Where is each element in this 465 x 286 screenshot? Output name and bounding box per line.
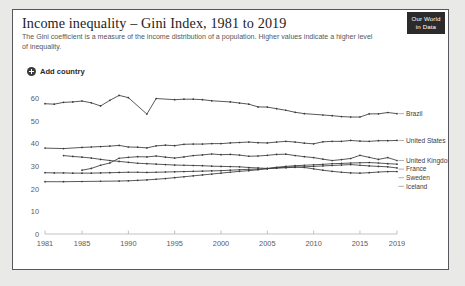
data-point [100,105,102,107]
data-point [229,142,231,144]
data-point [211,143,213,145]
data-point [183,143,185,145]
data-point [239,142,241,144]
data-point [359,164,361,166]
data-point [350,116,352,118]
data-point [331,163,333,165]
data-point [257,106,259,108]
data-point [174,171,176,173]
data-point [248,170,250,172]
data-point [155,155,157,157]
x-axis-tick-label: 2005 [259,239,275,248]
data-point [155,178,157,180]
data-point [137,180,139,182]
data-point [387,140,389,142]
y-axis-tick-label: 20 [31,185,39,194]
data-point [239,169,241,171]
data-point [257,155,259,157]
data-point [248,141,250,143]
data-point [396,171,398,173]
data-point [128,161,130,163]
data-point [322,114,324,116]
data-point [220,172,222,174]
data-point [202,170,204,172]
data-point [81,169,83,171]
data-point [165,178,167,180]
data-point [202,154,204,156]
data-point [266,142,268,144]
data-point [322,158,324,160]
data-point [44,103,46,105]
data-point [90,168,92,170]
legend-label-united-states: United States [406,137,446,144]
data-point [183,164,185,166]
data-point [276,108,278,110]
data-point [118,145,120,147]
data-point [285,141,287,143]
data-point [155,171,157,173]
data-point [211,173,213,175]
data-point [155,163,157,165]
data-point [192,98,194,100]
data-point [387,166,389,168]
data-point [63,148,65,150]
data-point [174,164,176,166]
data-point [146,156,148,158]
data-point [100,146,102,148]
data-point [248,103,250,105]
x-axis-tick-label: 2010 [305,239,321,248]
data-point [211,170,213,172]
data-point [304,167,306,169]
data-point [266,168,268,170]
plot-area: 0102030405060198119851990199520002005201… [13,10,449,270]
data-point [146,163,148,165]
data-point [285,109,287,111]
data-point [396,160,398,162]
data-point [109,160,111,162]
data-point [396,140,398,142]
data-point [137,156,139,158]
data-point [183,98,185,100]
data-point [202,143,204,145]
data-point [63,155,65,157]
data-point [81,100,83,102]
data-point [313,164,315,166]
data-point [359,162,361,164]
data-point [396,163,398,165]
data-point [211,153,213,155]
series-united-states [44,140,398,150]
data-point [331,141,333,143]
data-point [239,102,241,104]
data-point [341,163,343,165]
data-point [202,99,204,101]
series-brazil [44,95,398,118]
data-point [266,106,268,108]
data-point [146,147,148,149]
series-path [45,140,397,148]
data-point [285,153,287,155]
chart-card: Income inequality – Gini Index, 1981 to … [12,9,449,270]
data-point [313,168,315,170]
data-point [100,164,102,166]
data-point [128,157,130,159]
data-point [248,155,250,157]
data-point [276,167,278,169]
data-point [183,171,185,173]
data-point [100,159,102,161]
data-point [266,154,268,156]
data-point [220,170,222,172]
data-point [257,142,259,144]
data-point [285,166,287,168]
data-point [294,155,296,157]
data-point [322,141,324,143]
data-point [72,156,74,158]
data-point [350,162,352,164]
data-point [387,112,389,114]
data-point [229,169,231,171]
data-point [331,165,333,167]
data-point [81,147,83,149]
data-point [294,111,296,113]
data-point [100,180,102,182]
data-point [378,159,380,161]
data-point [239,154,241,156]
